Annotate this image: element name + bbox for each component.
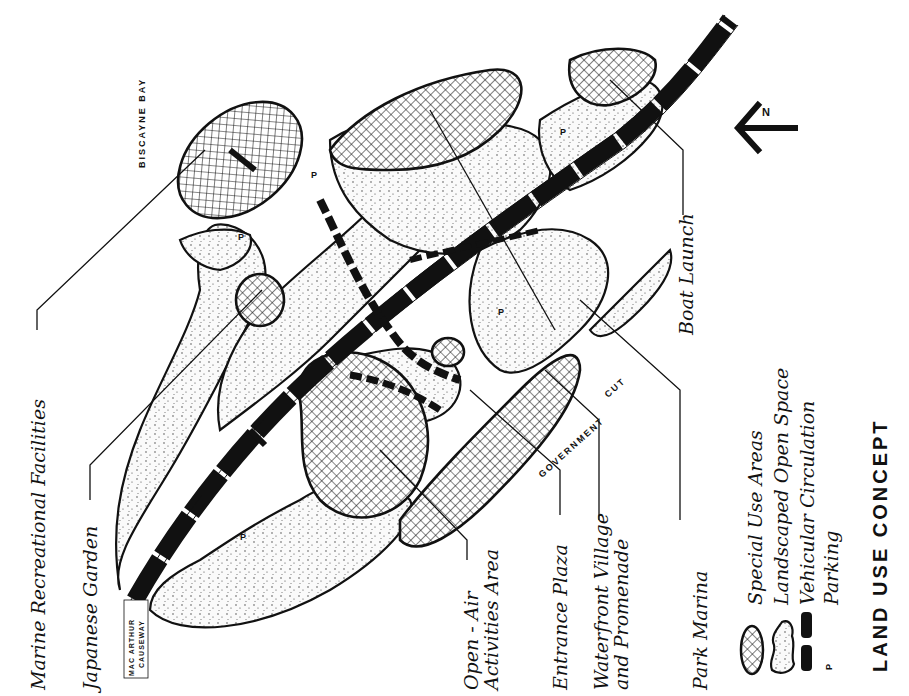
parking-marker: P bbox=[311, 170, 317, 180]
callout-marine-recreational: Marine Recreational Facilities bbox=[27, 399, 49, 691]
government-cut-label-2: CUT bbox=[603, 376, 628, 400]
callout-entrance-plaza: Entrance Plaza bbox=[549, 544, 571, 691]
legend-landscaped: Landscaped Open Space bbox=[770, 368, 792, 606]
parking-marker: P bbox=[240, 532, 246, 542]
callout-boat-launch: Boat Launch bbox=[675, 213, 697, 336]
causeway-label-2: CAUSEWAY bbox=[138, 620, 145, 668]
legend-vehicular: Vehicular Circulation bbox=[796, 401, 818, 605]
legend-special-use: Special Use Areas bbox=[744, 430, 766, 605]
callout-japanese-garden: Japanese Garden bbox=[79, 526, 101, 694]
land-use-site-plan: P P P P P Marine Recreational Facilities… bbox=[0, 0, 909, 696]
legend: P Special Use Areas Landscaped Open Spac… bbox=[741, 368, 842, 674]
causeway-label-1: MAC ARTHUR bbox=[128, 619, 135, 676]
legend-parking: Parking bbox=[820, 531, 842, 606]
parking-marker: P bbox=[238, 232, 244, 242]
parking-swatch-icon: P bbox=[824, 664, 834, 670]
parking-marker: P bbox=[498, 307, 504, 317]
entrance-plaza-area bbox=[432, 338, 464, 366]
callout-open-air-2: Activities Area bbox=[480, 549, 502, 692]
callout-waterfront-1: Waterfront Village bbox=[590, 513, 612, 690]
svg-text:N: N bbox=[762, 106, 770, 118]
parking-marker: P bbox=[560, 127, 566, 137]
vehicular-swatch-icon-2 bbox=[801, 645, 812, 671]
biscayne-bay-label: BISCAYNE BAY bbox=[137, 78, 147, 168]
landscaped-swatch-icon bbox=[771, 621, 794, 673]
vehicular-swatch-icon bbox=[801, 612, 812, 638]
japanese-garden-area bbox=[236, 274, 284, 326]
callout-waterfront-2: and Promenade bbox=[610, 539, 632, 690]
special-use-swatch-icon bbox=[741, 626, 763, 674]
callout-park-marina: Park Marina bbox=[689, 571, 711, 691]
plan-title: LAND USE CONCEPT bbox=[869, 418, 891, 672]
callout-open-air-1: Open - Air bbox=[460, 589, 482, 690]
north-arrow-icon: N bbox=[738, 105, 798, 150]
